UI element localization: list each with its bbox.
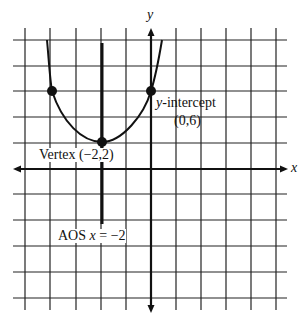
vertex-dot <box>97 137 107 147</box>
arrow-down-icon <box>148 305 155 313</box>
arrow-right-icon <box>280 166 288 173</box>
arrow-up-icon <box>148 28 155 36</box>
y-intercept-text: -intercept <box>162 95 216 110</box>
arrow-left-icon <box>13 166 21 173</box>
y-intercept-point-label: (0,6) <box>174 114 201 128</box>
y-axis-label: y <box>147 8 153 22</box>
aos-label: AOS x = −2 <box>58 229 126 243</box>
y-intercept-label: y-intercept <box>156 96 216 110</box>
y-intercept-dot <box>146 86 156 96</box>
left-point-dot <box>47 86 57 96</box>
aos-suffix: = −2 <box>96 228 126 243</box>
aos-prefix: AOS <box>58 228 90 243</box>
y-axis <box>148 28 155 313</box>
vertex-label: Vertex (−2,2) <box>39 148 114 162</box>
x-axis-label: x <box>291 161 297 175</box>
